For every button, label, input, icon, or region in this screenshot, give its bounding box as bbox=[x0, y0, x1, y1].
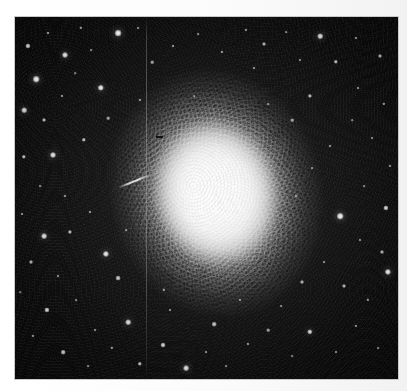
field-star bbox=[267, 103, 270, 106]
field-star bbox=[110, 346, 113, 349]
field-star bbox=[98, 85, 104, 91]
field-star bbox=[87, 365, 90, 368]
field-star bbox=[363, 185, 366, 188]
field-star bbox=[307, 329, 312, 334]
field-star bbox=[138, 98, 141, 101]
field-star bbox=[57, 275, 60, 278]
field-star bbox=[285, 31, 288, 34]
field-star bbox=[383, 205, 388, 210]
field-star bbox=[388, 164, 391, 167]
field-star bbox=[61, 350, 66, 355]
field-star bbox=[193, 95, 196, 98]
field-star bbox=[90, 49, 93, 52]
field-star bbox=[262, 42, 266, 46]
field-star bbox=[82, 138, 86, 142]
field-star bbox=[311, 167, 314, 170]
field-star bbox=[41, 233, 47, 239]
field-star bbox=[162, 288, 165, 291]
field-star bbox=[42, 118, 46, 122]
field-star bbox=[75, 299, 78, 302]
field-star bbox=[300, 280, 304, 284]
field-star bbox=[68, 230, 72, 234]
field-star bbox=[205, 351, 208, 354]
field-star bbox=[244, 28, 247, 31]
field-star bbox=[335, 351, 338, 354]
field-star bbox=[150, 60, 154, 64]
field-star bbox=[63, 194, 66, 197]
field-star bbox=[137, 27, 140, 30]
field-star bbox=[357, 87, 360, 90]
field-star bbox=[79, 26, 82, 29]
field-star bbox=[337, 213, 344, 220]
field-star bbox=[47, 32, 50, 35]
field-star bbox=[342, 284, 346, 288]
field-star bbox=[50, 152, 56, 158]
field-star bbox=[291, 355, 294, 358]
field-star bbox=[380, 250, 384, 254]
field-star bbox=[354, 324, 357, 327]
field-star bbox=[197, 33, 200, 36]
field-star bbox=[280, 305, 283, 308]
field-star bbox=[125, 229, 128, 232]
vertical-scratch-artifact bbox=[146, 17, 147, 379]
field-star bbox=[253, 67, 256, 70]
field-star bbox=[354, 36, 357, 39]
field-star bbox=[44, 307, 49, 312]
field-star bbox=[161, 343, 166, 348]
field-star bbox=[382, 102, 385, 105]
dust-speck-artifact bbox=[156, 136, 163, 138]
field-star bbox=[94, 329, 97, 332]
field-star bbox=[299, 59, 302, 62]
field-star bbox=[19, 291, 22, 294]
astronomical-image-figure bbox=[0, 0, 407, 391]
field-star bbox=[169, 309, 172, 312]
field-star bbox=[88, 210, 91, 213]
field-star bbox=[220, 50, 223, 53]
field-star bbox=[25, 43, 30, 48]
field-star bbox=[290, 118, 294, 122]
photographic-plate-frame bbox=[15, 17, 398, 379]
field-star bbox=[317, 33, 323, 39]
field-star bbox=[125, 319, 131, 325]
field-star bbox=[116, 276, 121, 281]
field-star bbox=[378, 54, 382, 58]
field-star bbox=[329, 145, 332, 148]
field-star bbox=[225, 365, 228, 368]
field-star bbox=[334, 60, 338, 64]
field-star bbox=[239, 299, 242, 302]
field-star bbox=[212, 322, 217, 327]
field-star bbox=[60, 94, 63, 97]
field-star bbox=[359, 239, 362, 242]
field-star bbox=[29, 260, 33, 264]
field-star bbox=[351, 119, 354, 122]
field-star bbox=[22, 155, 26, 159]
field-star bbox=[39, 185, 42, 188]
field-star bbox=[308, 94, 312, 98]
field-star bbox=[385, 269, 391, 275]
field-star bbox=[74, 72, 77, 75]
field-star bbox=[62, 52, 68, 58]
field-star bbox=[33, 76, 40, 83]
field-star bbox=[115, 30, 122, 37]
field-star bbox=[371, 137, 374, 140]
field-star bbox=[377, 347, 380, 350]
field-star bbox=[323, 261, 326, 264]
field-star bbox=[21, 107, 27, 113]
field-star bbox=[294, 194, 297, 197]
field-star bbox=[172, 45, 175, 48]
field-star bbox=[366, 298, 369, 301]
field-star bbox=[103, 251, 109, 257]
foreground-star-field bbox=[15, 17, 398, 379]
field-star bbox=[21, 213, 24, 216]
field-star bbox=[106, 116, 110, 120]
field-star bbox=[138, 362, 142, 366]
field-star bbox=[183, 365, 189, 371]
field-star bbox=[246, 342, 249, 345]
field-star bbox=[266, 328, 270, 332]
field-star bbox=[31, 334, 34, 337]
